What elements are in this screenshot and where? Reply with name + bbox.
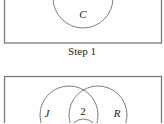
- step1-circle-c-label: C: [79, 8, 87, 20]
- venn-diagrams: C J R 2: [0, 0, 164, 123]
- step2-jr-lens-value: 2: [80, 105, 86, 117]
- venn-diagram-figure: C J R 2 Step 1: [0, 0, 164, 123]
- step1-universe-box: [5, 0, 162, 43]
- step1-caption: Step 1: [0, 45, 164, 58]
- step2-circle-j-label: J: [45, 107, 51, 119]
- step2-circle-r-label: R: [113, 107, 121, 119]
- step2-circle-c: [70, 119, 98, 123]
- step2-panel: J R 2: [5, 77, 162, 124]
- step1-panel: C: [5, 0, 162, 43]
